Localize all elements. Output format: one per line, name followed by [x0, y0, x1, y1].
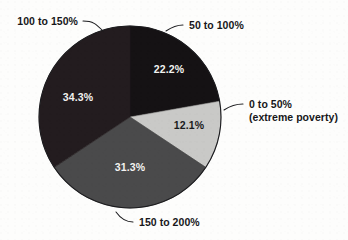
pie-chart: 22.2% 12.1% 31.3% 34.3% 100 to 150% 50 t… [0, 0, 348, 240]
leader-line-100-to-150 [83, 21, 103, 31]
callout-label-100-to-150: 100 to 150% [17, 15, 78, 27]
leader-line-0-to-50 [224, 104, 243, 110]
callout-label-50-to-100: 50 to 100% [189, 19, 244, 31]
slice-value-50-to-100: 22.2% [154, 63, 185, 75]
callout-label-150-to-200: 150 to 200% [139, 216, 200, 228]
slice-value-150-to-200: 31.3% [115, 161, 146, 173]
slice-value-0-to-50: 12.1% [174, 119, 205, 131]
pie-chart-figure: 22.2% 12.1% 31.3% 34.3% 100 to 150% 50 t… [0, 0, 348, 240]
callout-label-0-to-50: 0 to 50% [249, 98, 293, 110]
callout-label-extreme-poverty: (extreme poverty) [249, 111, 338, 123]
leader-line-50-to-100 [166, 25, 183, 31]
leader-line-150-to-200 [116, 212, 133, 222]
pie-slices [39, 26, 221, 208]
slice-value-100-to-150: 34.3% [63, 91, 94, 103]
